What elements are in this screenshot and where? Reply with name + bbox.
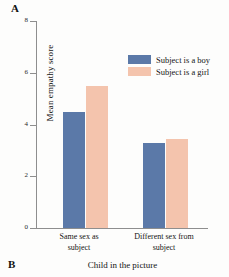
x-axis-line: [36, 228, 208, 229]
x-axis-category-label: Different sex fromsubject: [120, 232, 208, 253]
y-axis-tick: 0: [30, 228, 37, 229]
y-axis-tick-label: 0: [25, 223, 29, 232]
y-axis-tick: 2: [30, 176, 37, 177]
y-axis-tick-label: 8: [25, 16, 29, 25]
x-axis-category-line: Different sex from: [120, 232, 208, 243]
bar-group: [143, 21, 188, 228]
bar: [166, 139, 188, 228]
y-axis-tick: 8: [30, 21, 37, 22]
y-axis-tick-label: 2: [25, 171, 29, 180]
legend-swatch-icon: [128, 55, 151, 64]
plot-area: [37, 21, 208, 228]
x-axis-category-line: subject: [40, 243, 118, 254]
x-axis-category-line: Same sex as: [40, 232, 118, 243]
bar: [86, 86, 108, 228]
panel-label-b: B: [8, 258, 16, 270]
x-axis-category-label: Same sex assubject: [40, 232, 118, 253]
legend-label: Subject is a girl: [156, 67, 209, 77]
x-axis-title: Child in the picture: [37, 260, 208, 270]
legend-label: Subject is a boy: [156, 55, 210, 65]
legend-item: Subject is a girl: [128, 66, 210, 77]
legend-item: Subject is a boy: [128, 54, 210, 65]
y-axis-tick-label: 6: [25, 68, 29, 77]
chart-legend: Subject is a boySubject is a girl: [128, 54, 210, 78]
legend-swatch-icon: [128, 67, 151, 76]
y-axis-tick: 4: [30, 125, 37, 126]
panel-label-a: A: [11, 2, 19, 14]
bar: [63, 112, 85, 228]
bar-group: [63, 21, 108, 228]
x-axis-category-line: subject: [120, 243, 208, 254]
y-axis-tick-label: 4: [25, 120, 29, 129]
y-axis-tick: 6: [30, 73, 37, 74]
figure-panel: A 02468 Mean empathy score Same sex assu…: [0, 0, 229, 277]
bar: [143, 143, 165, 228]
